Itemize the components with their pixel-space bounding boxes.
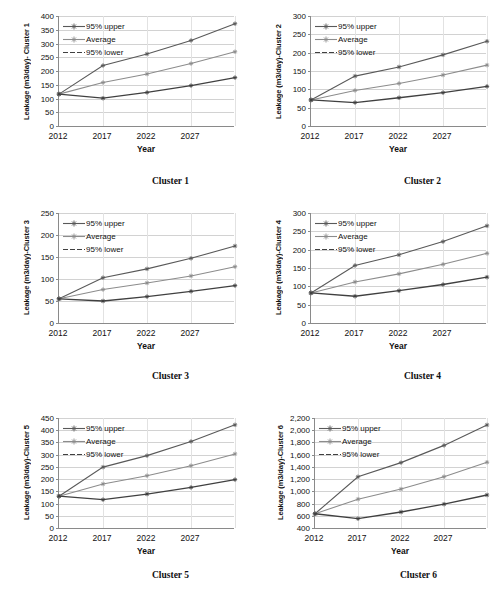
legend-swatch-icon bbox=[63, 437, 85, 446]
x-axis-ticks: 2012201720222027 bbox=[252, 533, 504, 545]
x-tick-label: 2022 bbox=[137, 131, 156, 141]
gridline-vertical bbox=[487, 213, 488, 323]
y-tick-label: 400 bbox=[41, 426, 54, 435]
legend-label: Average bbox=[86, 35, 116, 44]
y-axis-label: Leakage (m3/day)-Cluster 4 bbox=[274, 211, 283, 325]
y-axis-label: Leakage (m3/day)-Cluster 5 bbox=[22, 416, 31, 530]
legend-item-lower[interactable]: 95% lower bbox=[319, 450, 379, 459]
legend-swatch-icon bbox=[63, 22, 85, 31]
x-axis-ticks: 2012201720222027 bbox=[0, 533, 252, 545]
y-tick-label: 300 bbox=[293, 209, 306, 218]
x-tick-label: 2012 bbox=[305, 533, 324, 543]
legend-item-average[interactable]: Average bbox=[63, 232, 116, 241]
legend-label: Average bbox=[338, 35, 368, 44]
y-tick-label: 100 bbox=[41, 499, 54, 508]
y-tick-label: 200 bbox=[41, 67, 54, 76]
data-point-marker bbox=[441, 90, 445, 94]
x-tick-label: 2017 bbox=[348, 533, 367, 543]
data-point-marker bbox=[353, 100, 357, 104]
x-axis-line bbox=[311, 126, 486, 127]
legend-swatch-icon bbox=[315, 232, 337, 241]
chart-caption-cluster-5: Cluster 5 bbox=[152, 570, 189, 580]
legend-item-upper[interactable]: 95% upper bbox=[315, 22, 377, 31]
x-tick-label: 2017 bbox=[345, 131, 364, 141]
data-point-marker bbox=[397, 96, 401, 100]
legend-swatch-icon bbox=[315, 22, 337, 31]
gridline-vertical bbox=[235, 16, 236, 126]
legend-swatch-icon bbox=[319, 437, 341, 446]
data-point-marker bbox=[441, 53, 445, 57]
legend-item-average[interactable]: Average bbox=[315, 232, 368, 241]
data-point-marker bbox=[399, 510, 403, 514]
data-point-marker bbox=[189, 439, 193, 443]
data-point-marker bbox=[145, 72, 149, 76]
legend-label: 95% lower bbox=[342, 450, 379, 459]
chart-caption-cluster-1: Cluster 1 bbox=[152, 176, 189, 186]
legend-swatch-icon bbox=[63, 232, 85, 241]
data-point-marker bbox=[189, 61, 193, 65]
legend-item-upper[interactable]: 95% upper bbox=[63, 219, 125, 228]
chart-cell-cluster-4: Leakage (m3/day)-Cluster 405010015020025… bbox=[252, 195, 504, 390]
x-tick-label: 2017 bbox=[93, 533, 112, 543]
legend-item-upper[interactable]: 95% upper bbox=[63, 424, 125, 433]
legend-item-lower[interactable]: 95% lower bbox=[315, 245, 375, 254]
data-point-marker bbox=[309, 98, 313, 102]
data-point-marker bbox=[442, 502, 446, 506]
legend-item-upper[interactable]: 95% upper bbox=[63, 22, 125, 31]
data-point-marker bbox=[353, 280, 357, 284]
figure-grid: Leakage (m3/day)- Cluster 10501001502002… bbox=[0, 0, 504, 596]
y-tick-label: 100 bbox=[293, 282, 306, 291]
data-point-marker bbox=[145, 267, 149, 271]
x-tick-label: 2022 bbox=[391, 533, 410, 543]
y-axis-label: Leakage (m3/day)-Cluster 3 bbox=[22, 211, 31, 325]
data-point-marker bbox=[233, 264, 237, 268]
legend-item-lower[interactable]: 95% lower bbox=[63, 48, 123, 57]
gridline-vertical bbox=[487, 16, 488, 126]
data-point-marker bbox=[353, 88, 357, 92]
x-axis-ticks: 2012201720222027 bbox=[0, 328, 252, 340]
line-chart-cluster-5: Leakage (m3/day)-Cluster 505010015020025… bbox=[0, 390, 252, 596]
data-point-marker bbox=[356, 516, 360, 520]
data-point-marker bbox=[485, 423, 489, 427]
legend-item-lower[interactable]: 95% lower bbox=[63, 450, 123, 459]
legend-item-lower[interactable]: 95% lower bbox=[315, 48, 375, 57]
y-tick-mark bbox=[56, 126, 59, 127]
x-tick-label: 2012 bbox=[49, 328, 68, 338]
legend-item-lower[interactable]: 95% lower bbox=[63, 245, 123, 254]
data-point-marker bbox=[189, 274, 193, 278]
legend-swatch-icon bbox=[315, 35, 337, 44]
x-tick-label: 2027 bbox=[181, 533, 200, 543]
legend: 95% upperAverage95% lower bbox=[63, 424, 163, 464]
data-point-marker bbox=[233, 22, 237, 26]
y-tick-label: 200 bbox=[293, 48, 306, 57]
legend-item-average[interactable]: Average bbox=[63, 437, 116, 446]
x-axis-label: Year bbox=[252, 144, 504, 154]
y-tick-label: 100 bbox=[293, 85, 306, 94]
legend-item-average[interactable]: Average bbox=[63, 35, 116, 44]
line-chart-cluster-2: Leakage (m3/day)-Cluster 205010015020025… bbox=[252, 0, 504, 195]
data-point-marker bbox=[145, 294, 149, 298]
y-tick-label: 50 bbox=[45, 297, 54, 306]
x-tick-label: 2027 bbox=[181, 328, 200, 338]
legend-item-upper[interactable]: 95% upper bbox=[315, 219, 377, 228]
y-tick-mark bbox=[308, 126, 311, 127]
x-tick-label: 2012 bbox=[301, 328, 320, 338]
legend-item-average[interactable]: Average bbox=[319, 437, 372, 446]
y-tick-label: 50 bbox=[297, 103, 306, 112]
y-tick-label: 200 bbox=[41, 475, 54, 484]
legend-label: 95% upper bbox=[338, 219, 377, 228]
legend-item-upper[interactable]: 95% upper bbox=[319, 424, 381, 433]
chart-cell-cluster-6: Leakage (m3/day)-Cluster 64006008001,000… bbox=[252, 390, 504, 596]
x-axis-line bbox=[59, 528, 234, 529]
data-point-marker bbox=[441, 262, 445, 266]
data-point-marker bbox=[145, 90, 149, 94]
legend-item-average[interactable]: Average bbox=[315, 35, 368, 44]
x-tick-label: 2027 bbox=[433, 131, 452, 141]
y-tick-mark bbox=[312, 528, 315, 529]
data-point-marker bbox=[233, 477, 237, 481]
legend: 95% upperAverage95% lower bbox=[315, 22, 415, 62]
data-point-marker bbox=[233, 283, 237, 287]
y-tick-mark bbox=[56, 528, 59, 529]
y-tick-label: 150 bbox=[293, 67, 306, 76]
x-tick-label: 2012 bbox=[49, 131, 68, 141]
